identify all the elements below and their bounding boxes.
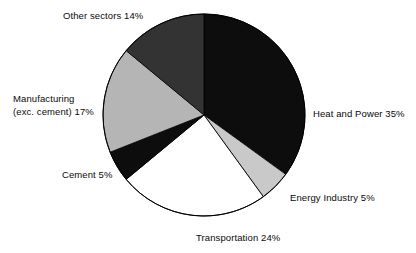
pie-label-energy-industry: Energy Industry 5%	[290, 192, 375, 205]
pie-label-manufacturing: Manufacturing (exc. cement) 17%	[13, 93, 94, 118]
pie-label-manufacturing-line1: Manufacturing	[13, 93, 94, 106]
pie-chart-svg	[0, 0, 416, 253]
pie-label-transportation: Transportation 24%	[196, 232, 280, 245]
pie-slices	[103, 14, 305, 216]
pie-label-other-sectors: Other sectors 14%	[63, 10, 143, 23]
pie-label-heat-and-power: Heat and Power 35%	[313, 108, 405, 121]
pie-label-manufacturing-line2: (exc. cement) 17%	[13, 106, 94, 119]
pie-chart-figure: Other sectors 14% Heat and Power 35% Ene…	[0, 0, 416, 253]
pie-label-cement: Cement 5%	[62, 169, 113, 182]
